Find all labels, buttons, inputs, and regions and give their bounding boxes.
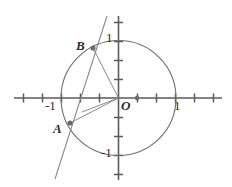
label-x-pos-one: 1 — [174, 99, 181, 112]
point-x-axis-marker — [135, 96, 139, 100]
label-y-pos-one: 1 — [106, 31, 113, 44]
point-A-marker — [67, 120, 72, 125]
label-point-a: A — [53, 122, 62, 135]
label-origin: O — [121, 99, 130, 112]
point-B-marker — [90, 45, 95, 50]
diagram-canvas — [0, 0, 232, 187]
label-point-b: B — [76, 39, 85, 52]
unit-circle-figure: B A O -1 1 1 -1 — [0, 0, 232, 187]
segment-OB — [93, 48, 119, 98]
label-x-neg-one: -1 — [45, 99, 56, 112]
label-y-neg-one: -1 — [101, 146, 112, 159]
